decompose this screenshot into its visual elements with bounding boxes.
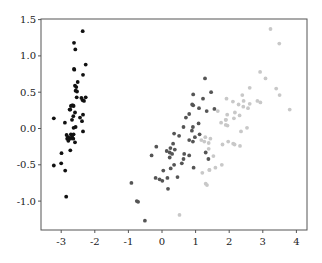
data-point: [237, 103, 241, 107]
data-point: [208, 168, 212, 172]
data-point: [197, 106, 201, 110]
data-point: [81, 73, 85, 77]
data-point: [288, 108, 292, 112]
data-point: [192, 166, 196, 170]
data-point: [207, 147, 211, 151]
data-point: [203, 135, 207, 139]
y-tick-label: 0.0: [20, 123, 36, 134]
data-point: [187, 138, 191, 142]
data-point: [248, 86, 252, 90]
data-point: [225, 113, 229, 117]
data-point: [158, 177, 162, 181]
data-point: [191, 125, 195, 129]
data-point: [169, 146, 173, 150]
data-point: [166, 187, 170, 191]
data-point: [66, 139, 70, 143]
y-tick-label: 1.0: [20, 50, 36, 61]
data-point: [154, 176, 158, 180]
x-tick-label: 3: [260, 236, 266, 247]
data-point: [199, 138, 203, 142]
data-point: [71, 114, 75, 118]
data-point: [207, 157, 211, 161]
data-point: [73, 111, 77, 115]
data-point: [191, 140, 195, 144]
data-point: [226, 140, 230, 144]
data-point: [172, 132, 176, 136]
data-point: [60, 151, 64, 155]
data-point: [187, 154, 191, 158]
data-point: [63, 121, 67, 125]
plot-area: [41, 19, 307, 230]
data-point: [190, 129, 194, 133]
data-point: [246, 106, 250, 110]
y-tick-label: -1.0: [17, 196, 36, 207]
y-axis: -1.0-0.50.00.51.01.5: [17, 14, 41, 207]
data-point: [166, 176, 170, 180]
data-point: [75, 95, 79, 99]
data-point: [70, 118, 74, 122]
y-tick-label: 0.5: [20, 87, 36, 98]
data-point: [182, 157, 186, 161]
x-tick-label: -1: [124, 236, 134, 247]
data-point: [52, 116, 56, 120]
data-point: [76, 80, 80, 84]
x-tick-label: -3: [56, 236, 66, 247]
data-point: [190, 103, 194, 107]
data-point: [68, 108, 72, 112]
data-point: [214, 166, 218, 170]
data-point: [73, 48, 77, 52]
data-point: [63, 169, 67, 173]
data-point: [72, 126, 76, 130]
data-point: [182, 152, 186, 156]
data-point: [201, 97, 205, 101]
data-point: [221, 143, 225, 147]
x-axis: -3-2-101234: [56, 230, 299, 247]
data-point: [168, 156, 172, 160]
data-point: [187, 112, 191, 116]
data-point: [200, 171, 204, 175]
data-point: [233, 111, 237, 115]
data-point: [232, 116, 236, 120]
data-point: [277, 42, 281, 46]
data-point: [171, 142, 175, 146]
data-point: [74, 85, 78, 89]
data-point: [184, 116, 188, 120]
data-point: [224, 123, 228, 127]
data-point: [84, 95, 88, 99]
scatter-chart: -3-2-101234 -1.0-0.50.00.51.01.5: [0, 0, 322, 263]
data-point: [207, 141, 211, 145]
data-point: [84, 63, 88, 67]
data-point: [231, 100, 235, 104]
data-point: [198, 132, 202, 136]
data-point: [274, 87, 278, 91]
data-point: [209, 137, 213, 141]
data-point: [216, 109, 220, 113]
x-tick-label: 4: [293, 236, 299, 247]
data-point: [203, 77, 207, 81]
data-point: [172, 163, 176, 167]
y-tick-label: -0.5: [17, 159, 36, 170]
data-point: [197, 122, 201, 126]
data-point: [191, 93, 195, 97]
data-point: [82, 99, 86, 103]
data-point: [220, 163, 224, 167]
data-point: [52, 164, 56, 168]
x-tick-label: -2: [90, 236, 100, 247]
data-point: [170, 152, 174, 156]
data-point: [81, 113, 85, 117]
data-point: [258, 70, 262, 74]
data-point: [69, 104, 73, 108]
y-tick-label: 1.5: [20, 14, 36, 25]
data-point: [278, 93, 282, 97]
data-point: [80, 119, 84, 123]
data-point: [68, 148, 72, 152]
data-point: [204, 182, 208, 186]
x-tick-label: 2: [226, 236, 232, 247]
data-point: [219, 121, 223, 125]
data-point: [169, 167, 173, 171]
data-point: [245, 126, 249, 130]
data-point: [224, 118, 228, 122]
data-point: [212, 154, 216, 158]
data-point: [70, 135, 74, 139]
data-point: [81, 130, 85, 134]
